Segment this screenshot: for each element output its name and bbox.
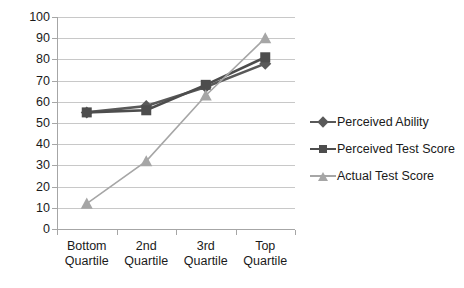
gridline	[57, 144, 295, 145]
x-tick-mark	[295, 230, 296, 235]
legend-label: Actual Test Score	[336, 169, 434, 183]
legend-item[interactable]: Perceived Test Score	[310, 135, 460, 162]
y-tick-mark	[52, 165, 57, 166]
gridline	[57, 208, 295, 209]
legend-square-icon	[310, 142, 336, 156]
x-tick-label-line: Top	[230, 239, 300, 254]
x-tick-mark	[117, 230, 118, 235]
legend-triangle-icon	[310, 169, 336, 183]
y-tick-mark	[52, 59, 57, 60]
y-tick-label: 50	[16, 117, 50, 130]
y-tick-label: 40	[16, 138, 50, 151]
gridline	[57, 123, 295, 124]
y-tick-mark	[52, 187, 57, 188]
y-tick-label: 60	[16, 96, 50, 109]
y-tick-mark	[52, 144, 57, 145]
gridline	[57, 102, 295, 103]
y-axis: 0102030405060708090100	[8, 0, 50, 288]
y-tick-label: 90	[16, 32, 50, 45]
x-tick-label: TopQuartile	[230, 239, 300, 269]
y-tick-label: 0	[16, 223, 50, 236]
gridline	[57, 38, 295, 39]
y-tick-mark	[52, 17, 57, 18]
y-tick-mark	[52, 123, 57, 124]
x-tick-mark	[57, 230, 58, 235]
gridline	[57, 81, 295, 82]
y-tick-label: 100	[16, 11, 50, 24]
x-tick-mark	[176, 230, 177, 235]
gridline	[57, 187, 295, 188]
legend-diamond-icon	[310, 115, 336, 129]
plot-area	[57, 17, 295, 229]
gridline	[57, 17, 295, 18]
y-tick-label: 20	[16, 180, 50, 193]
y-tick-label: 70	[16, 74, 50, 87]
legend-item[interactable]: Perceived Ability	[310, 108, 460, 135]
legend-label: Perceived Ability	[336, 115, 429, 129]
gridline	[57, 165, 295, 166]
y-tick-mark	[52, 102, 57, 103]
y-tick-label: 10	[16, 202, 50, 215]
legend-marker	[318, 172, 328, 181]
chart-legend: Perceived AbilityPerceived Test ScoreAct…	[310, 108, 460, 189]
y-tick-mark	[52, 38, 57, 39]
legend-label: Perceived Test Score	[336, 142, 455, 156]
line-chart: 0102030405060708090100 BottomQuartile2nd…	[0, 0, 464, 288]
y-tick-mark	[52, 81, 57, 82]
legend-item[interactable]: Actual Test Score	[310, 162, 460, 189]
legend-marker	[319, 145, 327, 153]
y-tick-label: 80	[16, 53, 50, 66]
x-tick-mark	[236, 230, 237, 235]
gridline	[57, 59, 295, 60]
y-tick-label: 30	[16, 159, 50, 172]
x-tick-label-line: Quartile	[230, 254, 300, 269]
legend-marker	[317, 116, 328, 127]
y-axis-line	[57, 17, 58, 230]
y-tick-mark	[52, 208, 57, 209]
